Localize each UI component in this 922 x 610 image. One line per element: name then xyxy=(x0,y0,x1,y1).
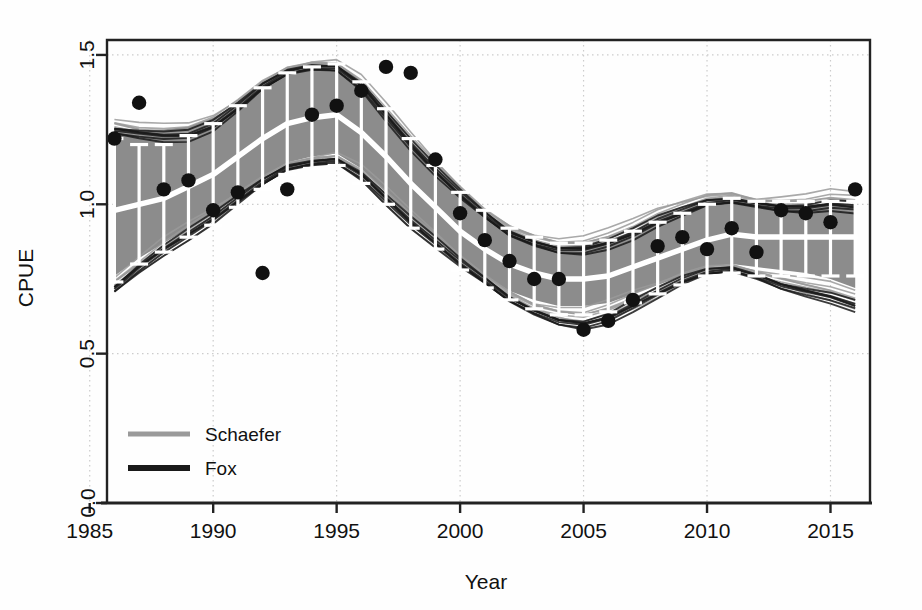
x-tick-label: 2000 xyxy=(437,519,484,542)
observed-point xyxy=(626,293,640,307)
x-tick-label: 2010 xyxy=(684,519,731,542)
observed-point xyxy=(478,233,492,247)
observed-point xyxy=(354,84,368,98)
observed-point xyxy=(848,182,862,196)
observed-point xyxy=(255,266,269,280)
observed-point xyxy=(601,314,615,328)
observed-point xyxy=(749,245,763,259)
observed-point xyxy=(305,107,319,121)
observed-point xyxy=(823,215,837,229)
x-tick-label: 2005 xyxy=(560,519,607,542)
observed-point xyxy=(379,60,393,74)
observed-point xyxy=(157,182,171,196)
observed-point xyxy=(675,230,689,244)
cpue-chart-svg: 19851990199520002005201020150.00.51.01.5… xyxy=(0,0,922,610)
observed-point xyxy=(329,99,343,113)
cpue-figure: 19851990199520002005201020150.00.51.01.5… xyxy=(0,0,922,610)
observed-point xyxy=(428,152,442,166)
y-tick-label: 1.5 xyxy=(76,40,99,69)
observed-point xyxy=(650,239,664,253)
legend-label-schaefer: Schaefer xyxy=(205,424,282,445)
x-tick-label: 1995 xyxy=(313,519,360,542)
observed-point xyxy=(799,206,813,220)
x-tick-label: 1985 xyxy=(66,519,113,542)
observed-point xyxy=(700,242,714,256)
observed-point xyxy=(774,203,788,217)
observed-point xyxy=(132,96,146,110)
observed-point xyxy=(181,173,195,187)
observed-point xyxy=(404,66,418,80)
y-tick-label: 0.5 xyxy=(76,339,99,368)
y-axis-title: CPUE xyxy=(14,249,37,307)
observed-point xyxy=(206,203,220,217)
observed-point xyxy=(552,272,566,286)
observed-point xyxy=(527,272,541,286)
observed-point xyxy=(107,131,121,145)
observed-point xyxy=(502,254,516,268)
y-tick-label: 1.0 xyxy=(76,190,99,219)
observed-point xyxy=(280,182,294,196)
y-tick-label: 0.0 xyxy=(76,488,99,517)
x-tick-label: 2015 xyxy=(807,519,854,542)
observed-point xyxy=(231,185,245,199)
observed-point xyxy=(576,323,590,337)
observed-point xyxy=(453,206,467,220)
x-tick-label: 1990 xyxy=(190,519,237,542)
legend-label-fox: Fox xyxy=(205,458,237,479)
observed-point xyxy=(725,221,739,235)
x-axis-title: Year xyxy=(465,570,507,593)
